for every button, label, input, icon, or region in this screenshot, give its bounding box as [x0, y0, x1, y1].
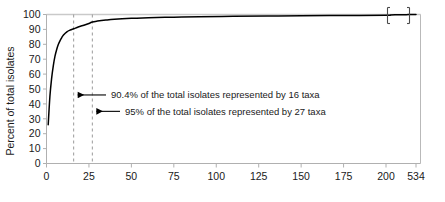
- x-tick-label: 100: [207, 170, 225, 182]
- x-tick-label: 25: [83, 170, 95, 182]
- y-tick-label: 60: [29, 68, 41, 80]
- y-tick-label: 80: [29, 38, 41, 50]
- chart-figure: 0102030405060708090100 02550751001251501…: [0, 0, 445, 202]
- annotation-label-95-percent: 95% of the total isolates represented by…: [125, 106, 326, 117]
- y-tick-label: 70: [29, 53, 41, 65]
- x-tick-label: 0: [44, 170, 50, 182]
- cumulative-percent-line-chart: 0102030405060708090100 02550751001251501…: [0, 0, 445, 202]
- x-tick-label: 50: [126, 170, 138, 182]
- y-tick-label: 100: [23, 8, 41, 20]
- x-tick-label: 75: [168, 170, 180, 182]
- x-axis-tick-labels: 0255075100125150175200534: [44, 170, 425, 182]
- x-tick-label: 534: [407, 170, 425, 182]
- y-tick-label: 30: [29, 113, 41, 125]
- y-axis-tick-labels: 0102030405060708090100: [23, 8, 41, 169]
- y-tick-label: 0: [35, 157, 41, 169]
- x-tick-label: 175: [335, 170, 353, 182]
- x-axis-ticks: [47, 164, 417, 168]
- x-tick-label: 125: [250, 170, 268, 182]
- reference-lines: [74, 15, 93, 164]
- y-axis-ticks: [43, 15, 47, 164]
- y-tick-label: 90: [29, 23, 41, 35]
- x-tick-label: 150: [292, 170, 310, 182]
- y-tick-label: 40: [29, 98, 41, 110]
- x-tick-label: 200: [377, 170, 395, 182]
- y-tick-label: 10: [29, 142, 41, 154]
- y-tick-label: 20: [29, 127, 41, 139]
- annotation-label-90-percent: 90.4% of the total isolates represented …: [111, 89, 320, 100]
- y-axis-title: Percent of total isolates: [4, 46, 16, 155]
- y-tick-label: 50: [29, 83, 41, 95]
